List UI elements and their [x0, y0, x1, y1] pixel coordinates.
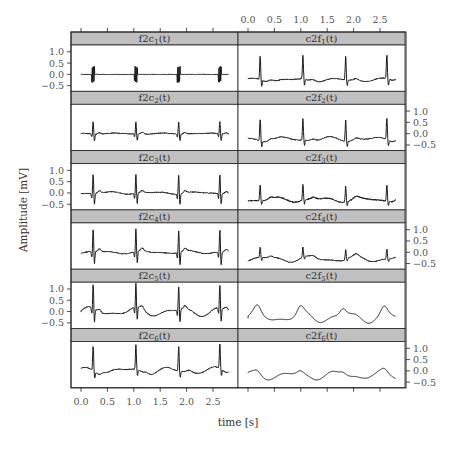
- plot-area: [238, 223, 405, 269]
- x-tick-label-bottom: 0.0: [73, 396, 88, 407]
- panel-c2f1-right: c2f1(t): [238, 32, 405, 91]
- y-tick-label: 0.0: [49, 187, 64, 198]
- y-axis-title: Amplitude [mV]: [17, 168, 29, 253]
- plot-area: [71, 223, 238, 269]
- x-tick-label-bottom: 2.5: [205, 396, 220, 407]
- x-tick-label-bottom: 0.5: [100, 396, 115, 407]
- y-tick-label: 0.5: [413, 117, 428, 128]
- x-tick-label-top: 1.0: [293, 14, 308, 25]
- panel-f2c3-left: f2c3(t): [71, 151, 238, 210]
- y-tick-label: 1.0: [49, 46, 64, 57]
- x-tick-label-bottom: 1.5: [153, 396, 168, 407]
- x-axis-title: time [s]: [218, 416, 259, 428]
- plot-area: [71, 45, 238, 91]
- y-tick-label: 1.0: [49, 165, 64, 176]
- panel-c2f6-right: c2f6(t): [238, 329, 405, 388]
- plot-area: [238, 45, 405, 91]
- plot-area: [71, 164, 238, 210]
- y-tick-label: 0.5: [49, 295, 64, 306]
- trellis-chart: f2c1(t)c2f1(t)f2c2(t)c2f2(t)f2c3(t)c2f3(…: [0, 0, 451, 449]
- x-tick-label-top: 0.5: [267, 14, 282, 25]
- y-tick-label: 0.5: [49, 176, 64, 187]
- plot-area: [71, 104, 238, 150]
- y-tick-label: 0.0: [413, 247, 428, 258]
- plot-area: [238, 282, 405, 328]
- x-tick-label-bottom: 2.0: [179, 396, 194, 407]
- panel-f2c4-left: f2c4(t): [71, 210, 238, 269]
- panel-c2f5-right: c2f5(t): [238, 269, 405, 328]
- y-tick-label: 1.0: [413, 224, 428, 235]
- y-tick-label: 0.5: [413, 235, 428, 246]
- plot-area: [238, 104, 405, 150]
- panel-f2c5-left: f2c5(t): [71, 269, 238, 328]
- y-tick-label: −0.5: [413, 377, 436, 388]
- y-tick-label: 0.0: [413, 365, 428, 376]
- y-tick-label: 1.0: [413, 343, 428, 354]
- plot-area: [71, 282, 238, 328]
- y-tick-label: −0.5: [41, 199, 64, 210]
- y-tick-label: −0.5: [413, 258, 436, 269]
- plot-area: [71, 342, 238, 388]
- y-tick-label: 1.0: [49, 283, 64, 294]
- x-tick-label-top: 2.0: [346, 14, 361, 25]
- y-tick-label: 0.0: [413, 128, 428, 139]
- plot-area: [238, 342, 405, 388]
- y-tick-label: −0.5: [41, 317, 64, 328]
- panel-c2f4-right: c2f4(t): [238, 210, 405, 269]
- y-tick-label: 0.5: [413, 354, 428, 365]
- y-tick-label: 0.5: [49, 58, 64, 69]
- panel-c2f2-right: c2f2(t): [238, 91, 405, 150]
- y-tick-label: 1.0: [413, 106, 428, 117]
- x-tick-label-top: 1.5: [320, 14, 335, 25]
- panel-f2c2-left: f2c2(t): [71, 91, 238, 150]
- panel-grid: f2c1(t)c2f1(t)f2c2(t)c2f2(t)f2c3(t)c2f3(…: [71, 32, 405, 388]
- panel-f2c6-left: f2c6(t): [71, 329, 238, 388]
- x-tick-label-bottom: 1.0: [126, 396, 141, 407]
- y-tick-label: 0.0: [49, 306, 64, 317]
- y-tick-label: −0.5: [41, 80, 64, 91]
- panel-c2f3-right: c2f3(t): [238, 151, 405, 210]
- panel-f2c1-left: f2c1(t): [71, 32, 238, 91]
- y-tick-label: 0.0: [49, 69, 64, 80]
- plot-area: [238, 164, 405, 210]
- y-tick-label: −0.5: [413, 139, 436, 150]
- x-tick-label-top: 2.5: [372, 14, 387, 25]
- x-tick-label-top: 0.0: [240, 14, 255, 25]
